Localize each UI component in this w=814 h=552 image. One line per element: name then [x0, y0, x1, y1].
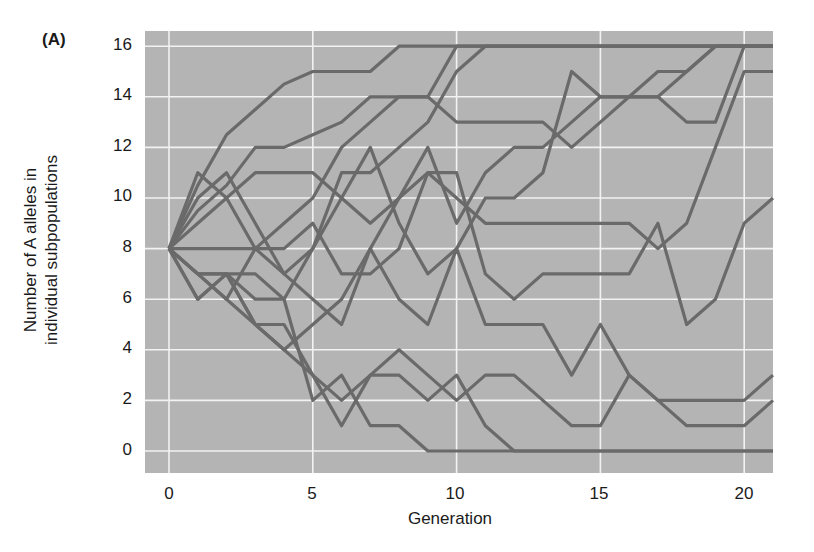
x-tick-5: 5: [292, 484, 332, 504]
x-tick-20: 20: [724, 484, 764, 504]
panel-label: (A): [42, 30, 66, 50]
y-tick-6: 6: [100, 288, 132, 308]
y-tick-16: 16: [100, 35, 132, 55]
x-tick-10: 10: [435, 484, 475, 504]
y-axis-label: Number of A alleles in individual subpop…: [18, 100, 78, 400]
y-tick-4: 4: [100, 338, 132, 358]
y-tick-2: 2: [100, 389, 132, 409]
x-tick-15: 15: [579, 484, 619, 504]
y-axis-label-line1: Number of A alleles in: [20, 100, 41, 400]
x-axis-label: Generation: [370, 509, 530, 529]
y-tick-0: 0: [100, 440, 132, 460]
y-tick-14: 14: [100, 85, 132, 105]
y-tick-10: 10: [100, 186, 132, 206]
y-axis-label-line2: individual subpopulations: [41, 100, 62, 400]
x-tick-0: 0: [149, 484, 189, 504]
y-tick-12: 12: [100, 136, 132, 156]
y-tick-8: 8: [100, 237, 132, 257]
chart-svg: [0, 0, 814, 552]
